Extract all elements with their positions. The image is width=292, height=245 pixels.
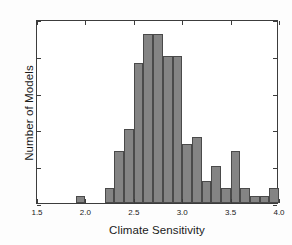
histogram-bar [76,196,86,203]
y-tick-mark [273,58,277,59]
histogram-bar [134,63,144,203]
histogram-bar [260,196,270,203]
x-tick-mark [85,21,86,25]
histogram-bar [192,137,202,203]
x-tick-label: 1.5 [20,209,54,217]
y-tick-mark [273,168,277,169]
histogram-bars [37,21,277,203]
x-tick-mark [279,199,280,203]
histogram-bar [143,34,153,203]
histogram-bar [182,144,192,203]
x-tick-label: 2.0 [68,209,102,217]
histogram-bar [211,166,221,203]
x-tick-mark [231,21,232,25]
histogram-bar [269,188,279,203]
x-tick-mark [37,21,38,25]
y-tick-mark [273,205,277,206]
x-tick-label: 3.0 [165,209,199,217]
histogram-bar [250,196,260,203]
x-tick-label: 2.5 [117,209,151,217]
histogram-bar [153,34,163,203]
y-tick-mark [37,95,41,96]
x-tick-mark [37,199,38,203]
y-axis-title: Number of Models [23,23,35,203]
histogram-bar [173,56,183,203]
y-tick-mark [273,95,277,96]
histogram-bar [221,188,231,203]
histogram-bar [231,151,241,203]
x-tick-mark [279,21,280,25]
histogram-bar [105,188,115,203]
y-tick-mark [273,21,277,22]
y-tick-mark [37,58,41,59]
histogram-bar [202,181,212,203]
histogram-figure: Number of Models 0510152025 1.52.02.53.0… [0,0,292,245]
x-tick-mark [231,199,232,203]
x-tick-mark [134,199,135,203]
x-tick-mark [182,199,183,203]
histogram-bar [114,151,124,203]
y-tick-mark [37,168,41,169]
y-tick-mark [37,205,41,206]
x-axis-title: Climate Sensitivity [36,224,278,236]
x-tick-mark [182,21,183,25]
x-tick-mark [85,199,86,203]
y-tick-mark [273,131,277,132]
histogram-bar [240,188,250,203]
x-tick-mark [134,21,135,25]
x-tick-label: 3.5 [214,209,248,217]
histogram-bar [124,129,134,203]
y-tick-mark [37,131,41,132]
plot-area: 0510152025 1.52.02.53.03.54.0 [36,20,278,204]
x-tick-label: 4.0 [262,209,292,217]
histogram-bar [163,56,173,203]
